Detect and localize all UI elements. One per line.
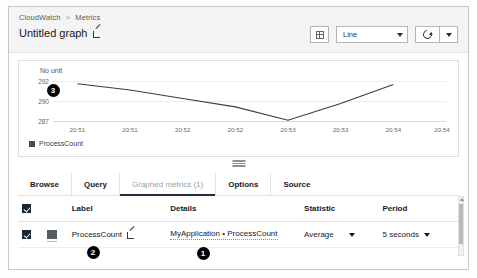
x-axis-tick: 20:51: [70, 126, 85, 133]
chart-legend: ProcessCount: [29, 140, 450, 147]
edit-pencil-icon[interactable]: [93, 29, 102, 38]
tab-options[interactable]: Options: [216, 173, 271, 195]
resize-grip-icon[interactable]: [232, 160, 245, 167]
chart-type-value: Line: [343, 30, 357, 39]
row-details-cell: MyApplication • ProcessCount: [170, 229, 304, 240]
x-axis-tick: 20:52: [175, 126, 190, 133]
page-title: Untitled graph: [19, 27, 88, 39]
chart-type-select[interactable]: Line: [336, 26, 408, 43]
grid-layout-icon: [316, 31, 324, 39]
graphed-metrics-table: Label Details Statistic Period ProcessCo…: [18, 196, 459, 248]
select-all-cell: [22, 204, 47, 213]
row-statistic-value: Average: [304, 230, 334, 239]
scroll-up-arrow-icon[interactable]: [460, 198, 464, 201]
column-header-statistic: Statistic: [304, 204, 335, 213]
refresh-icon: [421, 28, 434, 41]
tab-browse[interactable]: Browse: [18, 173, 72, 195]
table-header-row: Label Details Statistic Period: [18, 196, 459, 222]
chevron-down-icon[interactable]: [424, 233, 430, 237]
column-header-label: Label: [72, 204, 93, 213]
column-header-period: Period: [383, 204, 408, 213]
x-axis-tick: 20:54: [434, 126, 449, 133]
y-axis-tick: 290: [27, 98, 49, 105]
tab-graphed-metrics[interactable]: Graphed metrics (1): [120, 173, 216, 195]
refresh-button[interactable]: [415, 26, 439, 43]
annotation-badge-3: 3: [47, 84, 60, 97]
row-label-cell: ProcessCount: [72, 230, 171, 239]
screenshot-root: CloudWatch > Metrics Untitled graph Line: [0, 0, 477, 278]
x-axis-tick: 20:52: [228, 126, 243, 133]
tab-query[interactable]: Query: [72, 173, 120, 195]
chart-plot-area: 292 290 287: [27, 77, 450, 125]
grid-layout-button[interactable]: [310, 26, 329, 43]
header-controls: Line: [310, 26, 458, 43]
legend-label[interactable]: ProcessCount: [39, 140, 83, 147]
chart-series-processcount: [53, 77, 446, 124]
series-color-swatch[interactable]: [47, 230, 57, 239]
row-select-cell: [22, 230, 47, 239]
chevron-down-icon: [397, 33, 403, 37]
page-header: CloudWatch > Metrics Untitled graph Line: [9, 7, 468, 53]
tab-bar: Browse Query Graphed metrics (1) Options…: [18, 173, 459, 196]
refresh-group: [415, 26, 458, 43]
period-header-cell: Period: [383, 204, 460, 213]
edit-pencil-icon[interactable]: [127, 230, 136, 239]
row-period-cell[interactable]: 5 seconds: [383, 230, 460, 239]
breadcrumb-separator-icon: >: [66, 13, 71, 22]
chart-panel: No unit 292 290 287 20:51 20:51 20:52 20…: [18, 60, 459, 157]
x-axis-tick: 20:54: [386, 126, 401, 133]
select-all-checkbox[interactable]: [22, 204, 31, 213]
chart-unit-label: No unit: [40, 67, 450, 74]
y-axis-tick: 287: [27, 118, 49, 125]
label-header-cell: Label: [72, 204, 171, 213]
row-statistic-cell[interactable]: Average: [304, 230, 382, 239]
statistic-header-cell: Statistic: [304, 204, 382, 213]
tab-source[interactable]: Source: [271, 173, 322, 195]
details-header-cell: Details: [170, 204, 304, 213]
table-row: ProcessCount MyApplication • ProcessCoun…: [18, 222, 459, 248]
x-axis-tick: 20:53: [333, 126, 348, 133]
x-axis-tick: 20:53: [280, 126, 295, 133]
x-axis-ticks: 20:51 20:51 20:52 20:52 20:53 20:53 20:5…: [53, 125, 446, 137]
annotation-badge-1: 1: [197, 247, 210, 260]
table-vertical-scrollbar[interactable]: [458, 196, 464, 256]
annotation-badge-2: 2: [87, 246, 100, 259]
row-details-link[interactable]: MyApplication • ProcessCount: [170, 229, 277, 240]
row-color-cell: [47, 230, 72, 239]
cloudwatch-metrics-window: CloudWatch > Metrics Untitled graph Line: [8, 6, 469, 270]
breadcrumb-cloudwatch[interactable]: CloudWatch: [19, 13, 61, 22]
column-header-details: Details: [170, 204, 196, 213]
chevron-down-icon[interactable]: [349, 233, 355, 237]
row-checkbox[interactable]: [22, 230, 31, 239]
row-label-text: ProcessCount: [72, 230, 122, 239]
row-period-value: 5 seconds: [383, 230, 419, 239]
chevron-down-icon: [446, 33, 452, 37]
breadcrumb: CloudWatch > Metrics: [19, 13, 458, 22]
y-axis-tick: 292: [27, 78, 49, 85]
legend-swatch: [29, 141, 35, 147]
scrollbar-thumb[interactable]: [459, 204, 463, 244]
x-axis-tick: 20:51: [122, 126, 137, 133]
refresh-options-button[interactable]: [439, 26, 458, 43]
breadcrumb-metrics[interactable]: Metrics: [75, 13, 100, 22]
